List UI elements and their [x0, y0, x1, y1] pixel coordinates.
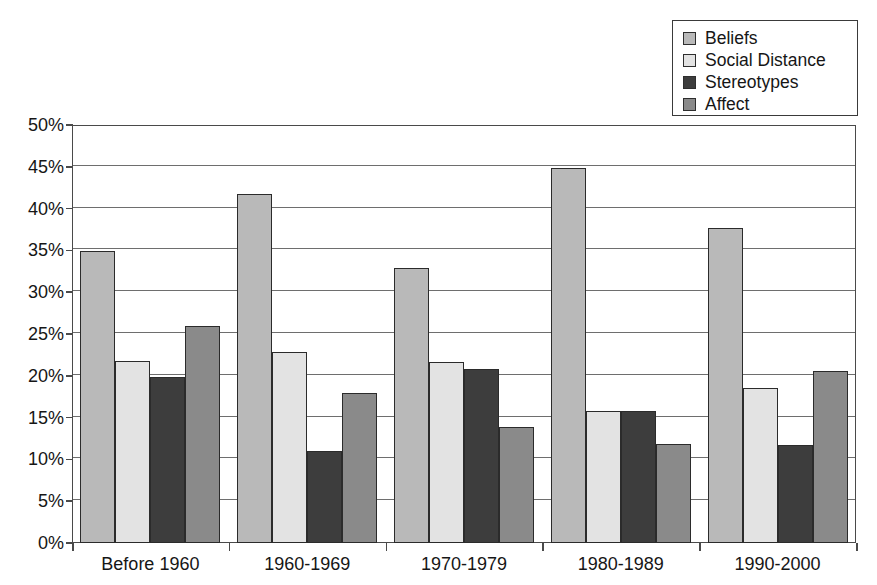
x-axis-tick-mark	[72, 543, 74, 551]
bar[interactable]	[551, 168, 586, 543]
bar[interactable]	[150, 377, 185, 543]
y-axis-tick-label: 0%	[8, 533, 64, 553]
y-axis-tick-label: 50%	[8, 115, 64, 135]
bar[interactable]	[586, 411, 621, 543]
legend-item-affect[interactable]: Affect	[683, 93, 857, 115]
bar[interactable]	[307, 451, 342, 543]
bar[interactable]	[656, 444, 691, 543]
bar[interactable]	[80, 251, 115, 543]
bar[interactable]	[185, 326, 220, 543]
legend-label-social-distance: Social Distance	[705, 51, 826, 70]
bar[interactable]	[708, 228, 743, 543]
legend-item-social-distance[interactable]: Social Distance	[683, 49, 857, 71]
legend-label-stereotypes: Stereotypes	[705, 73, 798, 92]
bar[interactable]	[115, 361, 150, 543]
x-axis-tick-label: 1970-1979	[421, 553, 507, 575]
y-axis-tick-label: 15%	[8, 408, 64, 428]
y-axis-tick-label: 25%	[8, 324, 64, 344]
y-axis-tick-label: 40%	[8, 199, 64, 219]
y-axis-tick-label: 10%	[8, 449, 64, 469]
legend-swatch-affect	[683, 98, 696, 111]
y-axis-tick-label: 45%	[8, 157, 64, 177]
bar[interactable]	[429, 362, 464, 543]
bar[interactable]	[499, 427, 534, 543]
y-axis-tick-label: 20%	[8, 366, 64, 386]
bar[interactable]	[813, 371, 848, 543]
bar[interactable]	[464, 369, 499, 543]
x-axis-tick-mark	[229, 543, 231, 551]
bar-group	[699, 125, 856, 543]
x-axis-tick-mark	[386, 543, 388, 551]
legend-swatch-social-distance	[683, 54, 696, 67]
x-axis-tick-mark	[699, 543, 701, 551]
bars-layer	[72, 125, 856, 543]
bar[interactable]	[237, 194, 272, 543]
bar[interactable]	[394, 268, 429, 543]
x-axis-tick-label: 1960-1969	[264, 553, 350, 575]
bar[interactable]	[778, 445, 813, 543]
legend-item-stereotypes[interactable]: Stereotypes	[683, 71, 857, 93]
chart-legend: Beliefs Social Distance Stereotypes Affe…	[672, 20, 858, 116]
x-axis-tick-label: Before 1960	[101, 553, 199, 575]
bar-group	[386, 125, 543, 543]
legend-label-affect: Affect	[705, 95, 749, 114]
bar-chart: 0%5%10%15%20%25%30%35%40%45%50% Before 1…	[0, 0, 877, 585]
bar[interactable]	[621, 411, 656, 543]
legend-label-beliefs: Beliefs	[705, 29, 758, 48]
x-axis-tick-mark	[856, 543, 858, 551]
bar[interactable]	[272, 352, 307, 543]
legend-item-beliefs[interactable]: Beliefs	[683, 27, 857, 49]
bar[interactable]	[342, 393, 377, 543]
legend-swatch-stereotypes	[683, 76, 696, 89]
x-axis-tick-label: 1990-2000	[735, 553, 821, 575]
y-axis-tick-label: 5%	[8, 491, 64, 511]
bar-group	[72, 125, 229, 543]
x-axis-tick-label: 1980-1989	[578, 553, 664, 575]
bar-group	[542, 125, 699, 543]
y-axis-tick-label: 35%	[8, 240, 64, 260]
legend-swatch-beliefs	[683, 32, 696, 45]
x-axis-tick-mark	[542, 543, 544, 551]
y-axis-tick-label: 30%	[8, 282, 64, 302]
bar[interactable]	[743, 388, 778, 543]
bar-group	[229, 125, 386, 543]
